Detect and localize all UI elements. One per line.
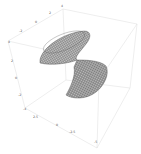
svg-text:2: 2 [11, 59, 13, 63]
svg-text:4: 4 [8, 40, 10, 44]
svg-text:-2: -2 [18, 93, 21, 97]
svg-text:0: 0 [35, 20, 37, 24]
bounding-box [8, 9, 137, 148]
surface-plot-3d: 4 2 0 -2 -4 -2 0 2 4 2.5 0 -2.5 -5 [0, 0, 141, 154]
svg-text:-5: -5 [94, 140, 97, 144]
z-axis-ticks: 4 2 0 -2 -4 [8, 40, 26, 111]
svg-text:-2.5: -2.5 [69, 130, 75, 134]
svg-text:2.5: 2.5 [33, 115, 38, 119]
svg-text:-2: -2 [19, 29, 22, 33]
svg-text:0: 0 [56, 123, 58, 127]
y-axis-ticks: -2 0 2 4 [19, 4, 63, 33]
surface-upper-lobe [40, 26, 90, 64]
x-axis-ticks: 2.5 0 -2.5 -5 [33, 115, 97, 144]
svg-text:2: 2 [49, 11, 51, 15]
svg-text:0: 0 [15, 76, 17, 80]
surface-lower-lobe [66, 60, 107, 98]
svg-text:4: 4 [61, 4, 63, 8]
svg-text:-4: -4 [23, 107, 26, 111]
